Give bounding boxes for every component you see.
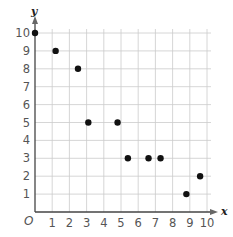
data-point: [183, 191, 189, 197]
y-axis-label: y: [30, 5, 39, 18]
origin-label: O: [24, 214, 33, 228]
data-point: [52, 48, 58, 54]
y-tick-label: 9: [23, 44, 30, 58]
x-tick-label: 8: [169, 216, 176, 230]
y-tick-label: 3: [23, 151, 30, 165]
data-point: [85, 119, 91, 125]
x-tick-label: 2: [66, 216, 73, 230]
x-tick-label: 7: [152, 216, 159, 230]
x-tick-label: 3: [83, 216, 90, 230]
y-tick-label: 10: [15, 26, 30, 40]
data-point: [197, 173, 203, 179]
data-point: [157, 155, 163, 161]
data-point: [32, 30, 38, 36]
data-points: [32, 30, 204, 198]
x-tick-label: 4: [100, 216, 107, 230]
data-point: [114, 119, 120, 125]
data-point: [145, 155, 151, 161]
y-tick-label: 6: [23, 98, 30, 112]
y-tick-label: 8: [23, 62, 30, 76]
x-tick-label: 6: [135, 216, 142, 230]
scatter-chart: 1234567891012345678910 x y O: [0, 0, 233, 237]
data-point: [75, 66, 81, 72]
y-tick-label: 5: [23, 116, 30, 130]
x-axis-label: x: [220, 205, 228, 218]
x-axis-arrow-icon: [210, 209, 218, 215]
x-tick-label: 1: [49, 216, 56, 230]
x-tick-label: 9: [186, 216, 193, 230]
tick-labels: 1234567891012345678910: [15, 26, 214, 230]
x-tick-label: 10: [200, 216, 215, 230]
y-tick-label: 2: [23, 169, 30, 183]
y-tick-label: 7: [23, 80, 30, 94]
data-point: [125, 155, 131, 161]
x-tick-label: 5: [117, 216, 124, 230]
y-tick-label: 4: [23, 133, 30, 147]
grid-lines: [35, 29, 211, 212]
y-tick-label: 1: [23, 187, 30, 201]
